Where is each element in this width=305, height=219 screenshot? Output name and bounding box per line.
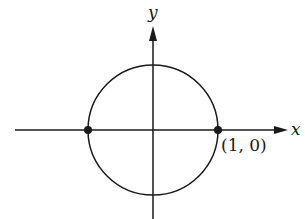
point-left-intersection: [84, 126, 92, 134]
y-axis-arrow-icon: [149, 26, 157, 41]
y-axis-label: y: [147, 2, 158, 22]
point-right-intersection: [214, 126, 222, 134]
x-axis-label: x: [291, 119, 301, 139]
x-axis-arrow-icon: [274, 126, 288, 134]
point-label-1-0: (1, 0): [221, 135, 267, 155]
unit-circle-diagram: y x (1, 0): [0, 0, 305, 219]
